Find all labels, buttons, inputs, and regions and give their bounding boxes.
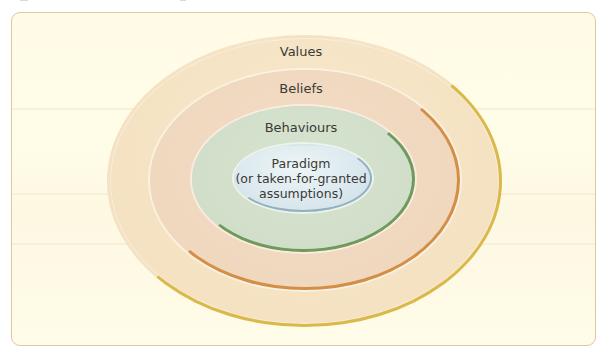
behaviours-label: Behaviours: [0, 120, 602, 136]
paradigm-label-line-1: Paradigm: [0, 156, 602, 171]
values-label: Values: [0, 44, 602, 60]
paradigm-label: Paradigm (or taken-for-granted assumptio…: [0, 156, 602, 201]
cropped-figure-caption: [20, 0, 190, 2]
beliefs-label: Beliefs: [0, 81, 602, 97]
paradigm-label-line-3: assumptions): [0, 186, 602, 201]
paradigm-label-line-2: (or taken-for-granted: [0, 171, 602, 186]
